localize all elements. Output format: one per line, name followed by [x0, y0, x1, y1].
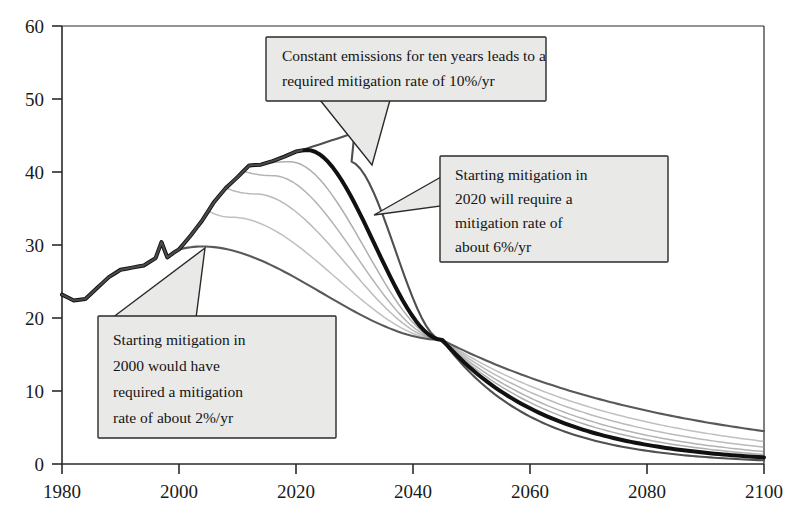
y-axis-labels: 60 50 40 30 20 10 0 [25, 16, 44, 475]
annotation-2pct-line1: Starting mitigation in [113, 331, 246, 348]
x-label-2060: 2060 [511, 481, 549, 502]
x-axis-ticks [62, 464, 764, 474]
annotation-2pct-line2: 2000 would have [113, 357, 220, 374]
annotation-6pct: Starting mitigation in 2020 will require… [374, 156, 668, 262]
emissions-mitigation-chart: 60 50 40 30 20 10 0 1980 2000 2020 2040 … [0, 0, 800, 524]
y-label-0: 0 [35, 454, 45, 475]
y-label-10: 10 [25, 381, 44, 402]
x-label-2100: 2100 [745, 481, 783, 502]
annotation-6pct-line3: mitigation rate of [455, 214, 563, 231]
annotation-2pct-line4: rate of about 2%/yr [113, 409, 234, 426]
x-label-2080: 2080 [628, 481, 666, 502]
chart-page: 60 50 40 30 20 10 0 1980 2000 2020 2040 … [0, 0, 800, 524]
x-label-2020: 2020 [277, 481, 315, 502]
x-label-2000: 2000 [160, 481, 198, 502]
y-axis-ticks [52, 26, 62, 464]
annotation-10pct-line2: required mitigation rate of 10%/yr [282, 72, 495, 89]
y-label-60: 60 [25, 16, 44, 37]
annotation-10pct: Constant emissions for ten years leads t… [266, 37, 546, 165]
y-label-20: 20 [25, 308, 44, 329]
annotation-2pct-line3: required a mitigation [113, 383, 243, 400]
annotation-6pct-tail [374, 177, 441, 215]
annotation-6pct-line2: 2020 will require a [455, 190, 573, 207]
annotation-6pct-line4: about 6%/yr [455, 238, 532, 255]
x-axis-labels: 1980 2000 2020 2040 2060 2080 2100 [43, 481, 783, 502]
annotation-10pct-tail [320, 100, 390, 165]
y-label-50: 50 [25, 89, 44, 110]
y-label-30: 30 [25, 235, 44, 256]
y-label-40: 40 [25, 162, 44, 183]
annotation-6pct-line1: Starting mitigation in [455, 166, 588, 183]
annotation-2pct: Starting mitigation in 2000 would have r… [98, 248, 336, 438]
annotation-10pct-line1: Constant emissions for ten years leads t… [282, 47, 546, 64]
annotation-2pct-tail [112, 248, 205, 318]
x-label-2040: 2040 [394, 481, 432, 502]
x-label-1980: 1980 [43, 481, 81, 502]
